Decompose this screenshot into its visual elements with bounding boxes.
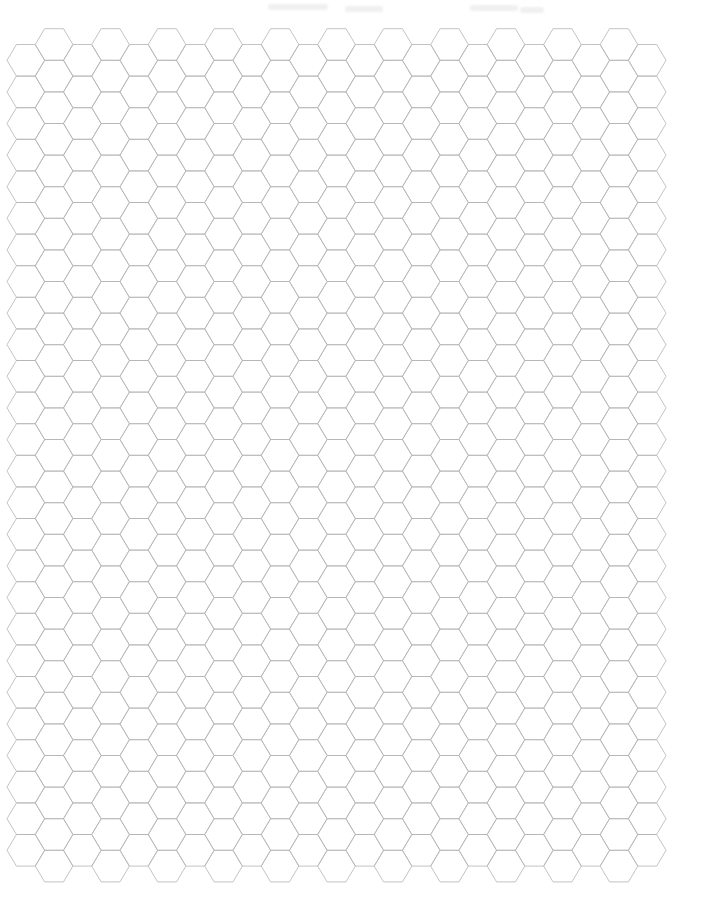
hex-grid-lines	[7, 29, 666, 882]
hex-grid	[0, 0, 716, 923]
hex-grid-page	[0, 0, 716, 923]
